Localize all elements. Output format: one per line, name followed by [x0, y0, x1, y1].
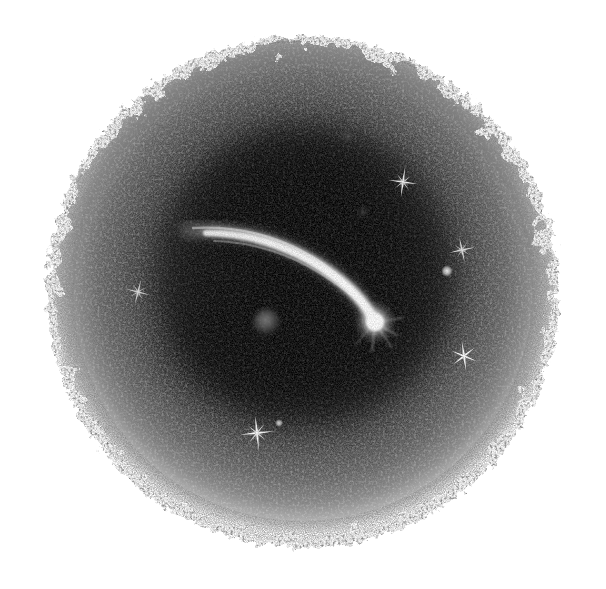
night-sky-illustration — [0, 0, 606, 589]
overall-grain-overlay — [51, 40, 555, 544]
artboard: Comet in a Starry Night Sky charcoal and… — [0, 0, 606, 589]
